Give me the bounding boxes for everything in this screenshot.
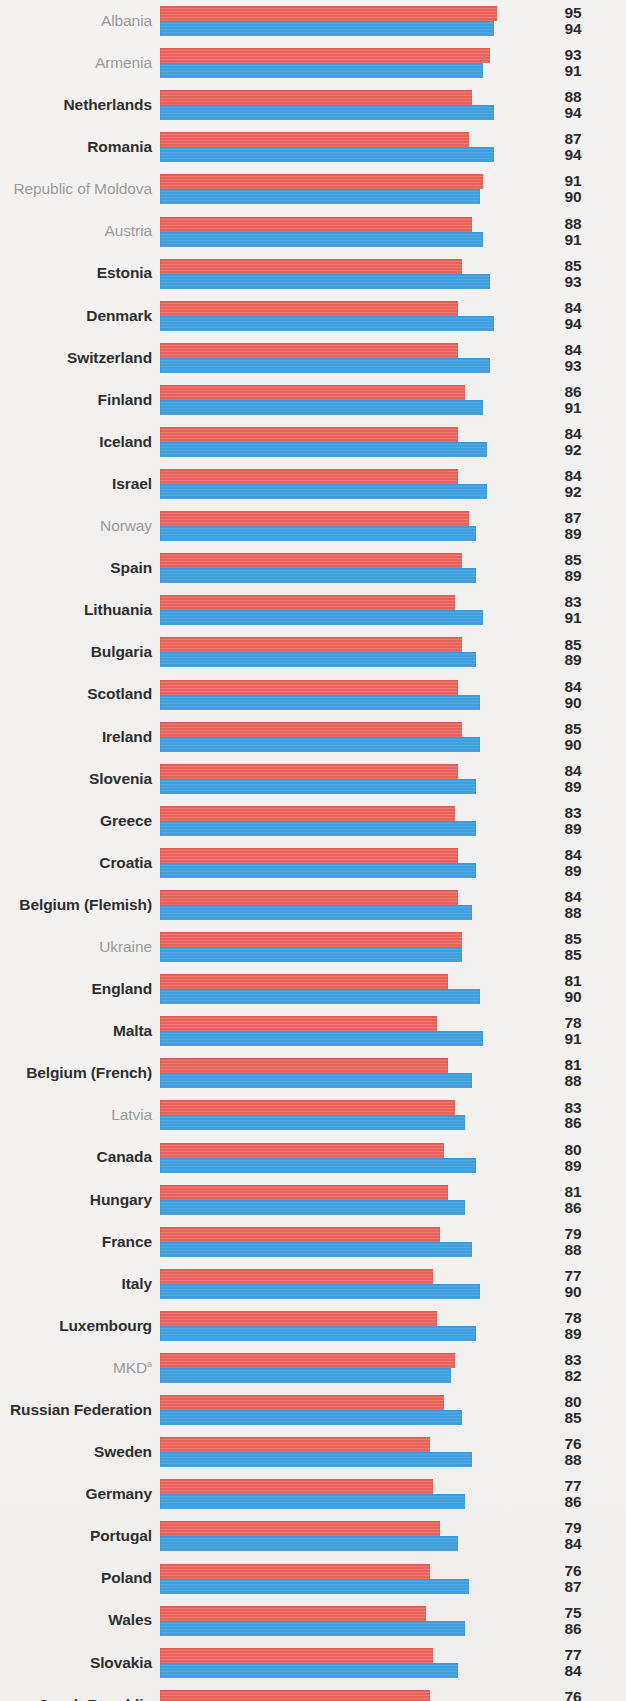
bar-group [160, 1137, 626, 1179]
bar-girls [160, 779, 476, 794]
bar-group [160, 1305, 626, 1347]
country-row: Bulgaria8589 [0, 631, 626, 673]
country-label: Israel [0, 476, 160, 492]
country-row: Republic of Moldova9190 [0, 168, 626, 210]
bar-girls [160, 316, 494, 331]
bar-girls [160, 1284, 480, 1299]
bar-group [160, 1431, 626, 1473]
bar-girls [160, 568, 476, 583]
bar-group [160, 1263, 626, 1305]
country-label: Finland [0, 392, 160, 408]
bar-boys [160, 932, 462, 947]
bar-group [160, 1347, 626, 1389]
bar-girls [160, 358, 490, 373]
bar-boys [160, 1690, 430, 1701]
bar-girls [160, 232, 483, 247]
chart-root: Albania9594Armenia9391Netherlands8894Rom… [0, 0, 626, 1701]
country-label: Switzerland [0, 350, 160, 366]
country-label: Austria [0, 223, 160, 239]
bar-boys [160, 1521, 440, 1536]
bar-group [160, 0, 626, 42]
bar-girls [160, 695, 480, 710]
country-label: Ireland [0, 729, 160, 745]
country-row: Estonia8593 [0, 253, 626, 295]
country-row: Armenia9391 [0, 42, 626, 84]
bar-boys [160, 259, 462, 274]
bar-boys [160, 553, 462, 568]
country-row: Italy7790 [0, 1263, 626, 1305]
bar-girls [160, 1326, 476, 1341]
bar-group [160, 1221, 626, 1263]
bar-group [160, 1642, 626, 1684]
country-row: Albania9594 [0, 0, 626, 42]
country-row: Canada8089 [0, 1137, 626, 1179]
bar-girls [160, 1579, 469, 1594]
country-row: Ireland8590 [0, 716, 626, 758]
country-label: Slovakia [0, 1655, 160, 1671]
country-label: MKDa [0, 1360, 160, 1376]
bar-group [160, 379, 626, 421]
country-row: MKDa8382 [0, 1347, 626, 1389]
bar-boys [160, 1648, 433, 1663]
bar-group [160, 1052, 626, 1094]
country-row: England8190 [0, 968, 626, 1010]
country-row: Germany7786 [0, 1473, 626, 1515]
country-row: Slovakia7784 [0, 1642, 626, 1684]
bar-boys [160, 890, 458, 905]
country-label: Armenia [0, 55, 160, 71]
bar-girls [160, 989, 480, 1004]
bar-group [160, 716, 626, 758]
country-label: Greece [0, 813, 160, 829]
bar-girls [160, 1158, 476, 1173]
bar-girls [160, 737, 480, 752]
bar-boys [160, 722, 462, 737]
country-row: Iceland8492 [0, 421, 626, 463]
country-row: Israel8492 [0, 463, 626, 505]
bar-boys [160, 6, 497, 21]
bar-boys [160, 1564, 430, 1579]
country-label: Slovenia [0, 771, 160, 787]
bar-girls [160, 1663, 458, 1678]
bar-group [160, 1389, 626, 1431]
country-label: Hungary [0, 1192, 160, 1208]
country-label: Spain [0, 560, 160, 576]
country-label: Portugal [0, 1528, 160, 1544]
bar-group [160, 42, 626, 84]
footnote-marker: a [147, 1359, 152, 1369]
bar-boys [160, 974, 448, 989]
country-label: Belgium (Flemish) [0, 897, 160, 913]
country-label: Netherlands [0, 97, 160, 113]
country-label: Bulgaria [0, 644, 160, 660]
bar-boys [160, 764, 458, 779]
bar-boys [160, 217, 472, 232]
bar-boys [160, 1437, 430, 1452]
bar-group [160, 674, 626, 716]
bar-boys [160, 1185, 448, 1200]
country-label: Luxembourg [0, 1318, 160, 1334]
country-row: Sweden7688 [0, 1431, 626, 1473]
bar-group [160, 926, 626, 968]
bar-girls [160, 526, 476, 541]
country-row: Poland7687 [0, 1557, 626, 1599]
country-row: Belgium (Flemish)8488 [0, 884, 626, 926]
bar-girls [160, 274, 490, 289]
bar-boys [160, 1606, 426, 1621]
bar-girls [160, 1115, 465, 1130]
country-row: Belgium (French)8188 [0, 1052, 626, 1094]
bar-group [160, 1600, 626, 1642]
bar-group [160, 884, 626, 926]
bar-boys [160, 1143, 444, 1158]
country-label: Lithuania [0, 602, 160, 618]
country-label: Italy [0, 1276, 160, 1292]
bar-girls [160, 147, 494, 162]
country-rows: Albania9594Armenia9391Netherlands8894Rom… [0, 0, 626, 1701]
bar-girls [160, 1368, 451, 1383]
bar-group [160, 1010, 626, 1052]
bar-group [160, 84, 626, 126]
bar-boys [160, 174, 483, 189]
bar-girls [160, 863, 476, 878]
bar-group [160, 421, 626, 463]
bar-group [160, 1684, 626, 1701]
bar-boys [160, 1016, 437, 1031]
country-row: Spain8589 [0, 547, 626, 589]
